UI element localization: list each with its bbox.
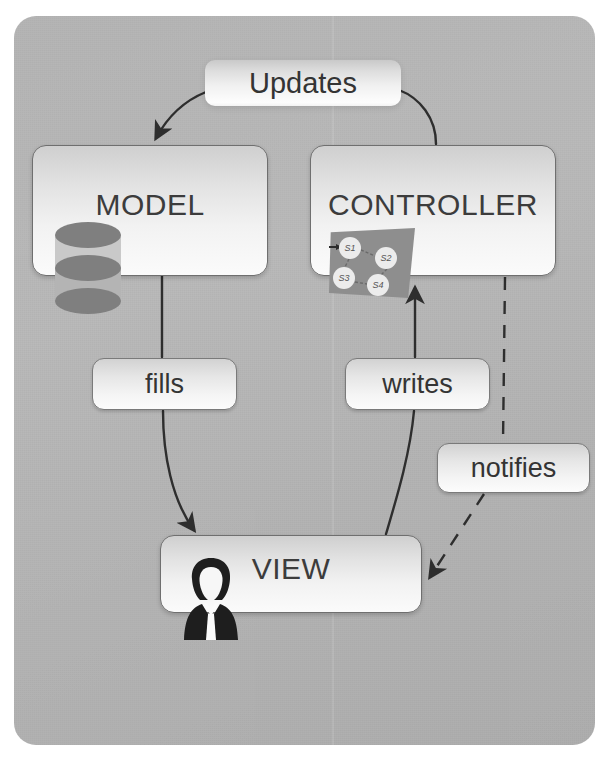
state-node-s2: S2 [375, 247, 397, 269]
edge-label-fills: fills [92, 358, 237, 410]
database-disc-middle [55, 255, 121, 281]
state-node-s4: S4 [367, 274, 389, 296]
node-controller-label: CONTROLLER [311, 188, 555, 222]
edge-fills-lower [163, 411, 194, 530]
edge-label-notifies: notifies [437, 443, 590, 493]
edge-label-writes: writes [345, 358, 490, 410]
database-disc-top [55, 222, 121, 248]
edge-label-notifies-text: notifies [471, 453, 557, 484]
edge-writes-lower [386, 411, 414, 534]
state-machine-icon: S1 S2 S3 S4 [329, 228, 415, 298]
database-disc-bottom [55, 288, 121, 314]
person-icon [182, 556, 240, 642]
state-node-s3: S3 [333, 267, 355, 289]
state-node-s1: S1 [339, 237, 361, 259]
edge-notifies-lower [430, 494, 484, 577]
node-model-label: MODEL [33, 188, 267, 222]
edge-updates-arrow-path [156, 92, 206, 138]
edge-label-writes-text: writes [382, 369, 453, 400]
edge-label-fills-text: fills [145, 369, 184, 400]
edge-label-updates: Updates [205, 60, 401, 106]
mvc-diagram: Updates MODEL CONTROLLER S1 S2 S3 S4 fil… [0, 0, 610, 767]
database-icon [55, 222, 121, 318]
edge-label-updates-text: Updates [249, 67, 357, 100]
edge-notifies-upper [503, 277, 505, 443]
edge-updates-path [399, 90, 436, 144]
